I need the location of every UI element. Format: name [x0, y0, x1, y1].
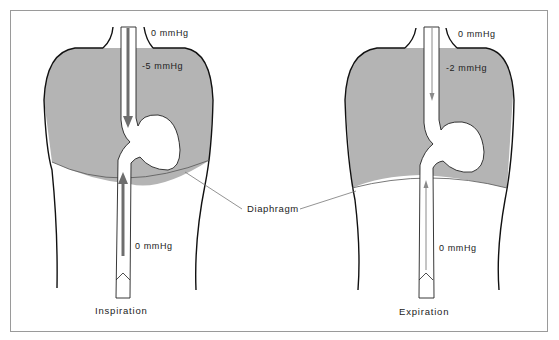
- inspiration-top-pressure: 0 mmHg: [151, 28, 189, 38]
- inspiration-thorax-pressure: -5 mmHg: [142, 61, 183, 71]
- neck-left-outline: [405, 28, 416, 48]
- expiration-top-pressure: 0 mmHg: [458, 29, 496, 39]
- expiration-thorax-pressure: -2 mmHg: [446, 63, 487, 73]
- diaphragm-leader-right: [300, 191, 356, 209]
- neck-left-outline: [103, 27, 113, 48]
- diaphragm-label: Diaphragm: [247, 203, 299, 214]
- inspiration-caption: Inspiration: [95, 305, 148, 316]
- inspiration-abdomen-pressure: 0 mmHg: [135, 241, 173, 251]
- diaphragm-leader-left: [185, 172, 242, 209]
- expiration-abdomen-pressure: 0 mmHg: [439, 243, 477, 253]
- expiration-caption: Expiration: [399, 306, 449, 317]
- neck-right-outline: [446, 28, 457, 48]
- pressure-diagram: [0, 0, 559, 340]
